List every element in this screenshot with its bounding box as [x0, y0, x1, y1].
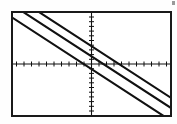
- graph-viewport-frame[interactable]: [11, 11, 172, 117]
- graph-plot-area[interactable]: [13, 13, 170, 115]
- scan-artifact-icon: [172, 1, 175, 5]
- screenshot-root: [0, 0, 177, 124]
